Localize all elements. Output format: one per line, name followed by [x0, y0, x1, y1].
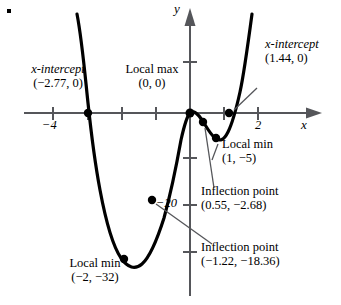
annotation-inflection-left-line1: Inflection point — [201, 240, 280, 254]
annotation-local-min-left: Local min (−2, −32) — [40, 256, 150, 284]
annotation-x-intercept-right: x-intercept (1.44, 0) — [265, 37, 319, 65]
annotation-x-intercept-right-line2: (1.44, 0) — [265, 51, 319, 65]
xtick-label-2: 2 — [255, 118, 261, 132]
annotation-local-min-right-line2: (1, −5) — [222, 151, 273, 165]
leader-lines — [156, 88, 257, 244]
annotation-inflection-left: Inflection point (−1.22, −18.36) — [201, 240, 280, 268]
annotation-local-min-left-line2: (−2, −32) — [40, 270, 150, 284]
point-local-min-right — [212, 134, 220, 142]
ytick-label-minus20: −20 — [156, 196, 177, 210]
y-axis-label: y — [174, 2, 180, 17]
annotation-x-intercept-right-line1: x-intercept — [265, 37, 319, 51]
annotation-x-intercept-left-line2: (−2.77, 0) — [10, 76, 106, 90]
annotation-local-min-right: Local min (1, −5) — [222, 137, 273, 165]
annotation-x-intercept-left: x-intercept (−2.77, 0) — [10, 62, 106, 90]
annotation-local-max-line1: Local max — [112, 62, 192, 76]
x-axis — [24, 108, 322, 119]
annotation-inflection-right-line1: Inflection point — [201, 184, 278, 198]
x-axis-label: x — [301, 118, 307, 133]
annotation-local-max: Local max (0, 0) — [112, 62, 192, 90]
annotation-inflection-right: Inflection point (0.55, −2.68) — [201, 184, 278, 212]
point-inflection-right — [199, 118, 207, 126]
point-local-max — [186, 109, 195, 118]
annotation-local-max-line2: (0, 0) — [112, 76, 192, 90]
annotation-local-min-right-line1: Local min — [222, 137, 273, 151]
annotation-local-min-left-line1: Local min — [40, 256, 150, 270]
annotation-x-intercept-left-line1: x-intercept — [31, 62, 85, 76]
xtick-label-minus4: −4 — [42, 118, 57, 132]
point-x-intercept-left — [84, 109, 92, 117]
annotation-inflection-left-line2: (−1.22, −18.36) — [201, 254, 280, 268]
point-inflection-left — [148, 196, 156, 204]
annotation-inflection-right-line2: (0.55, −2.68) — [201, 198, 278, 212]
leader-local-min-right — [212, 144, 218, 160]
point-x-intercept-right — [225, 109, 233, 117]
graph-figure: x-intercept (−2.77, 0) Local max (0, 0) … — [0, 0, 341, 305]
